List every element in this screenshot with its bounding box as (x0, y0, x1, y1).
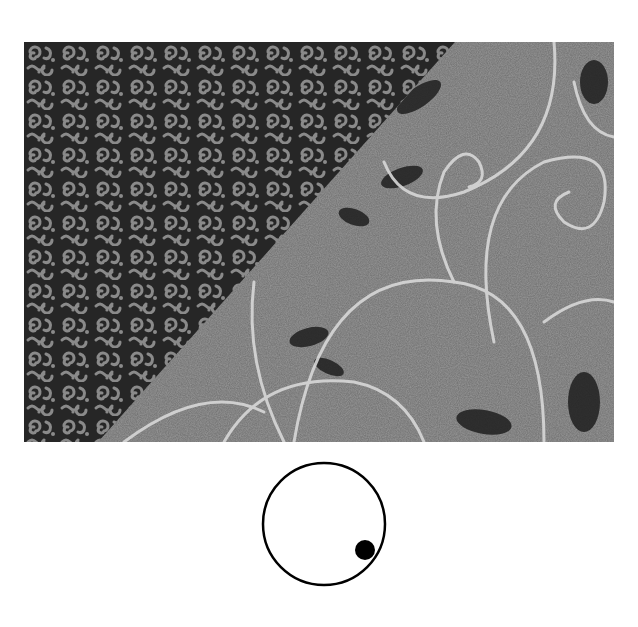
marker-dot (355, 540, 375, 560)
position-diagram (258, 458, 390, 590)
outline-circle (263, 463, 385, 585)
fabric-photo (24, 42, 614, 442)
